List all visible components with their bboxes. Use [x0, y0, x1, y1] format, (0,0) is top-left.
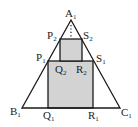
label-Q1: Q1	[43, 109, 55, 123]
label-S1: S1	[96, 52, 106, 66]
label-A1: A1	[65, 7, 77, 21]
label-P2: P2	[47, 29, 57, 43]
geometry-diagram: A1 P2 S2 P1 S1 Q2 R2 B1 Q1 R1 C1	[0, 0, 138, 127]
label-S2: S2	[83, 29, 93, 43]
small-square	[60, 39, 82, 61]
label-C1: C1	[121, 106, 132, 120]
label-R1: R1	[88, 109, 99, 123]
label-B1: B1	[10, 105, 21, 119]
label-P1: P1	[36, 51, 46, 65]
